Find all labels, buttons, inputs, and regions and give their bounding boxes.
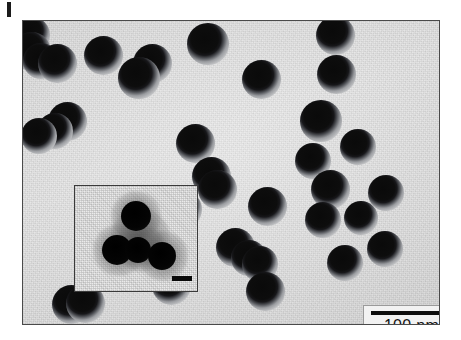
nanoparticle <box>300 100 342 142</box>
nanoparticle <box>246 272 285 311</box>
inset-scale-bar <box>172 276 192 281</box>
nanoparticle <box>187 23 229 65</box>
nanoparticle <box>198 170 237 209</box>
nanoparticle <box>118 57 160 99</box>
nanoparticle <box>316 20 355 55</box>
inset-nanoparticle-core <box>121 201 151 231</box>
tem-micrograph-image: 100 nm <box>22 20 440 325</box>
inset-nanoparticle-core <box>148 242 176 270</box>
nanoparticle <box>317 55 356 94</box>
inset-nanoparticle-core <box>125 237 151 263</box>
nanoparticle <box>367 231 403 267</box>
nanoparticle <box>84 36 123 75</box>
inset-panel <box>74 185 198 292</box>
nanoparticle <box>305 202 341 238</box>
nanoparticle <box>340 129 376 165</box>
nanoparticle <box>327 245 363 281</box>
nanoparticle <box>242 60 281 99</box>
scale-bar-label: 100 nm <box>384 317 439 325</box>
nanoparticle <box>368 175 404 211</box>
scale-bar-line <box>371 311 441 315</box>
scale-bar: 100 nm <box>363 305 440 325</box>
nanoparticle <box>38 44 77 83</box>
figure-label-mark <box>7 2 11 17</box>
nanoparticle <box>248 187 287 226</box>
